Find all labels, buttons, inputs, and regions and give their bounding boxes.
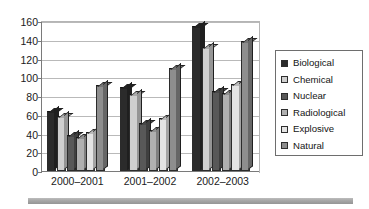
legend-swatch-icon bbox=[281, 60, 288, 67]
bar bbox=[241, 41, 250, 171]
bar bbox=[76, 137, 85, 171]
y-tick-label: 60 bbox=[6, 111, 38, 122]
legend-swatch-icon bbox=[281, 142, 288, 149]
x-tick-label: 2000–2001 bbox=[41, 176, 114, 187]
legend-label: Natural bbox=[293, 141, 324, 151]
x-axis-tick-labels: 2000–20012001–20022002–2003 bbox=[41, 176, 260, 192]
y-tick-label: 80 bbox=[6, 92, 38, 103]
plot-wrapper: 020406080100120140160 2000–20012001–2002… bbox=[0, 0, 272, 190]
bar bbox=[222, 93, 231, 171]
legend-item: Explosive bbox=[281, 121, 359, 137]
legend-label: Nuclear bbox=[293, 91, 326, 101]
footer-rule bbox=[28, 198, 353, 204]
bar bbox=[86, 132, 95, 171]
bar-groups bbox=[42, 22, 259, 171]
bar-group bbox=[42, 22, 115, 171]
bar bbox=[129, 94, 138, 171]
bar bbox=[159, 118, 168, 171]
x-tick-label: 2002–2003 bbox=[186, 176, 259, 187]
y-tick-label: 40 bbox=[6, 129, 38, 140]
y-tick-label: 120 bbox=[6, 54, 38, 65]
bar bbox=[149, 130, 158, 171]
chart-figure: 020406080100120140160 2000–20012001–2002… bbox=[0, 0, 369, 209]
bar bbox=[139, 123, 148, 171]
legend-swatch-icon bbox=[281, 126, 288, 133]
bar-group bbox=[115, 22, 188, 171]
bar bbox=[67, 135, 76, 171]
y-tick-label: 100 bbox=[6, 73, 38, 84]
legend-item: Chemical bbox=[281, 72, 359, 88]
bar bbox=[57, 116, 66, 171]
bar bbox=[192, 26, 201, 171]
legend-label: Biological bbox=[293, 58, 334, 68]
bar-group bbox=[187, 22, 260, 171]
chart-legend: BiologicalChemicalNuclearRadiologicalExp… bbox=[275, 50, 363, 156]
y-tick-label: 20 bbox=[6, 148, 38, 159]
x-tick-label: 2001–2002 bbox=[114, 176, 187, 187]
bar bbox=[169, 68, 178, 171]
legend-swatch-icon bbox=[281, 76, 288, 83]
bar bbox=[96, 85, 105, 171]
bar bbox=[47, 111, 56, 171]
legend-item: Radiological bbox=[281, 105, 359, 121]
legend-swatch-icon bbox=[281, 93, 288, 100]
legend-item: Biological bbox=[281, 55, 359, 71]
legend-label: Chemical bbox=[293, 75, 333, 85]
bar bbox=[202, 47, 211, 171]
legend-label: Radiological bbox=[293, 108, 345, 118]
y-tick-mark bbox=[38, 172, 42, 173]
bar bbox=[212, 91, 221, 171]
y-tick-label: 0 bbox=[6, 167, 38, 178]
legend-item: Nuclear bbox=[281, 88, 359, 104]
y-tick-label: 160 bbox=[6, 17, 38, 28]
legend-label: Explosive bbox=[293, 124, 334, 134]
bar bbox=[231, 84, 240, 171]
y-axis-tick-labels: 020406080100120140160 bbox=[6, 0, 38, 190]
plot-area bbox=[41, 22, 259, 172]
legend-swatch-icon bbox=[281, 109, 288, 116]
legend-item: Natural bbox=[281, 138, 359, 154]
bar bbox=[120, 87, 129, 171]
y-tick-label: 140 bbox=[6, 36, 38, 47]
